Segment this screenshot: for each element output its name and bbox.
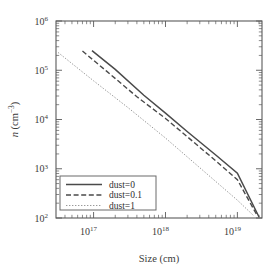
- x-tick-label: 1018: [152, 225, 170, 237]
- y-axis-label: n (cm−3): [7, 101, 21, 137]
- y-tick-label: 104: [35, 113, 49, 125]
- y-tick-label: 105: [35, 64, 49, 76]
- legend-label-2: dust=1: [109, 201, 135, 211]
- legend-label-1: dust=0.1: [109, 190, 142, 200]
- x-tick-label: 1019: [224, 225, 242, 237]
- chart-figure: 101710181019102103104105106Size (cm)n (c…: [0, 0, 280, 270]
- legend-label-0: dust=0: [109, 180, 135, 190]
- log-log-line-chart: 101710181019102103104105106Size (cm)n (c…: [0, 0, 280, 270]
- x-axis-label: Size (cm): [139, 253, 180, 265]
- x-tick-label: 1017: [80, 225, 98, 237]
- y-tick-label: 103: [35, 163, 49, 175]
- figure-container: 101710181019102103104105106Size (cm)n (c…: [0, 0, 280, 270]
- y-tick-label: 106: [35, 15, 49, 27]
- y-tick-label: 102: [35, 212, 49, 224]
